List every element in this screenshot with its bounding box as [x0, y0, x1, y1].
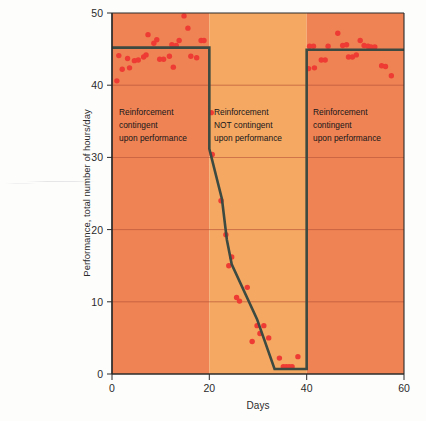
data-point [161, 57, 166, 62]
data-point [249, 339, 254, 344]
data-point [295, 354, 300, 359]
x-tick-label-0: 0 [109, 382, 115, 394]
phase-3-label-line-1: Reinforcement [313, 107, 368, 117]
y-axis: 50 40 30 20 10 0 Performance, total numb… [81, 7, 112, 380]
data-point [277, 355, 282, 360]
data-point [116, 53, 121, 58]
phase-3-label-line-2: contingent [313, 120, 352, 130]
y-tick-label-10: 10 [91, 296, 103, 308]
data-point [245, 285, 250, 290]
chart-canvas: 50 40 30 20 10 0 Performance, total numb… [0, 0, 426, 421]
y-tick-label-50: 50 [91, 7, 103, 19]
data-point [389, 73, 394, 78]
data-point [237, 298, 242, 303]
data-point [194, 55, 199, 60]
data-point [185, 25, 190, 30]
phase-3-label-line-3: upon performance [313, 133, 381, 143]
data-point [143, 52, 148, 57]
phase-1-background [112, 13, 209, 374]
x-tick-label-60: 60 [398, 382, 410, 394]
x-axis-title: Days [247, 400, 270, 411]
data-point [188, 54, 193, 59]
phase-1-label-line-1: Reinforcement [119, 107, 174, 117]
data-point [167, 54, 172, 59]
phase-2-label-line-3: upon performance [214, 133, 282, 143]
phase-3-background [307, 13, 404, 374]
data-point [325, 44, 330, 49]
y-tick-label-40: 40 [91, 79, 103, 91]
data-point [358, 38, 363, 43]
data-point [312, 65, 317, 70]
data-point [154, 37, 159, 42]
y-tick-label-0: 0 [97, 368, 103, 380]
x-tick-label-20: 20 [203, 382, 215, 394]
data-point [261, 323, 266, 328]
data-point [176, 38, 181, 43]
data-point [201, 38, 206, 43]
data-point [311, 44, 316, 49]
phase-1-label-line-3: upon performance [119, 133, 187, 143]
data-point [114, 78, 119, 83]
data-point [125, 56, 130, 61]
x-axis: 0 20 40 60 Days [109, 374, 410, 411]
data-point [145, 32, 150, 37]
data-point [344, 42, 349, 47]
data-point [335, 31, 340, 36]
data-point [266, 335, 271, 340]
y-tick-label-30: 30 [91, 151, 103, 163]
x-tick-label-40: 40 [301, 382, 313, 394]
figure-page: 50 40 30 20 10 0 Performance, total numb… [0, 0, 426, 421]
y-axis-title: Performance, total number of hours/day [81, 109, 92, 277]
data-point [120, 67, 125, 72]
phase-2-label-line-1: Reinforcement [214, 107, 269, 117]
phase-1-label-line-2: contingent [119, 120, 158, 130]
data-point [127, 65, 132, 70]
data-point [171, 64, 176, 69]
y-tick-label-20: 20 [91, 224, 103, 236]
data-point [136, 57, 141, 62]
data-point [181, 13, 186, 18]
phase-2-label-line-2: NOT contingent [214, 120, 273, 130]
data-point [354, 52, 359, 57]
data-point [322, 57, 327, 62]
data-point [383, 64, 388, 69]
